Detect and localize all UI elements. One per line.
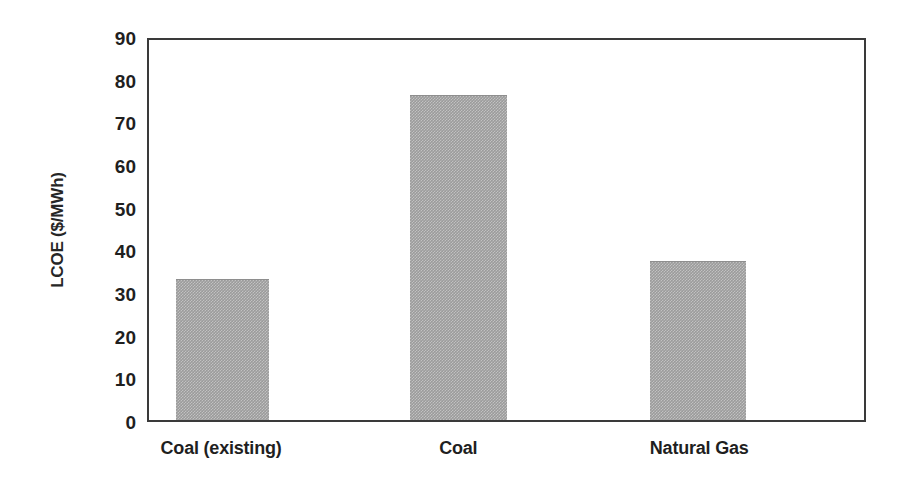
plot-area	[147, 38, 866, 422]
bar	[176, 279, 270, 420]
y-axis-tick-label: 30	[78, 285, 136, 304]
chart-figure: LCOE ($/MWh) 9080706050403020100 Coal (e…	[0, 0, 913, 490]
y-axis-tick-label: 10	[78, 370, 136, 389]
plot-inner	[149, 40, 864, 420]
y-axis-tick-label: 60	[78, 157, 136, 176]
y-axis-tick-label: 20	[78, 327, 136, 346]
y-axis-tick-label: 50	[78, 199, 136, 218]
y-axis-tick-label: 40	[78, 242, 136, 261]
x-axis-tick-label: Coal (existing)	[161, 438, 282, 459]
x-axis-tick-label: Coal	[439, 438, 477, 459]
x-axis-tick-labels: Coal (existing)CoalNatural Gas	[147, 432, 866, 472]
y-axis-tick-label: 80	[78, 71, 136, 90]
y-axis-tick-label: 0	[78, 413, 136, 432]
bar	[410, 95, 507, 420]
bar	[650, 261, 746, 420]
y-axis-tick-label: 70	[78, 114, 136, 133]
y-axis-title: LCOE ($/MWh)	[46, 38, 70, 422]
y-axis-tick-label: 90	[78, 29, 136, 48]
y-axis-tick-labels: 9080706050403020100	[78, 38, 136, 422]
x-axis-tick-label: Natural Gas	[650, 438, 749, 459]
